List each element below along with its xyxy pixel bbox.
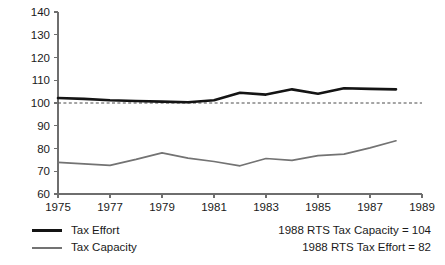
y-tick-label: 80	[37, 143, 50, 155]
y-axis	[54, 12, 58, 194]
legend-swatch-tax-effort	[32, 229, 62, 232]
x-tick-label: 1981	[201, 201, 227, 213]
x-tick-label: 1985	[305, 201, 331, 213]
series-line-tax-capacity	[58, 141, 396, 166]
series-line-tax-effort	[58, 88, 396, 102]
x-tick-group	[58, 194, 422, 198]
legend-item-tax-capacity: Tax Capacity	[32, 239, 202, 256]
y-tick-label: 90	[37, 120, 50, 132]
y-tick-label: 110	[32, 74, 50, 86]
legend-label-tax-effort: Tax Effort	[71, 224, 119, 237]
y-tick-label-group: 60708090100110120130140	[31, 6, 50, 200]
legend-label-tax-capacity: Tax Capacity	[71, 241, 137, 254]
x-tick-label: 1977	[97, 201, 123, 213]
y-tick-label: 70	[37, 165, 50, 177]
annotation-tax-capacity: 1988 RTS Tax Capacity = 104	[278, 222, 431, 239]
x-tick-label: 1983	[253, 201, 279, 213]
series-group	[58, 88, 396, 166]
chart-annotations: 1988 RTS Tax Capacity = 104 1988 RTS Tax…	[278, 222, 431, 256]
y-tick-group	[54, 12, 58, 194]
chart-legend: Tax Effort Tax Capacity	[32, 222, 202, 256]
x-tick-label-group: 19751977197919811983198519871989	[45, 201, 435, 213]
y-tick-label: 100	[31, 97, 50, 109]
y-tick-label: 60	[37, 188, 50, 200]
y-tick-label: 120	[31, 52, 50, 64]
chart-container: 60708090100110120130140 1975197719791981…	[0, 0, 445, 265]
x-tick-label: 1989	[409, 201, 435, 213]
x-tick-label: 1979	[149, 201, 175, 213]
legend-swatch-tax-capacity	[32, 247, 62, 249]
x-tick-label: 1987	[357, 201, 383, 213]
y-tick-label: 130	[31, 29, 50, 41]
x-tick-label: 1975	[45, 201, 71, 213]
x-axis	[58, 194, 422, 198]
legend-item-tax-effort: Tax Effort	[32, 222, 202, 239]
annotation-tax-effort: 1988 RTS Tax Effort = 82	[278, 239, 431, 256]
y-tick-label: 140	[31, 6, 50, 18]
